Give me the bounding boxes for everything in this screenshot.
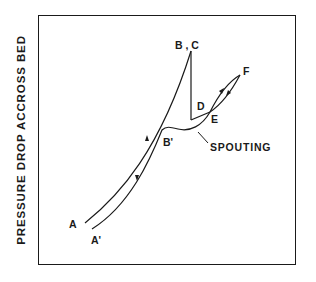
- arrow-up-icon: [145, 135, 149, 141]
- curve-increasing-flow: [85, 51, 191, 223]
- label-a-prime: A': [91, 235, 101, 246]
- label-b-c: B , C: [175, 40, 199, 51]
- label-e: E: [211, 114, 218, 125]
- label-b-prime: B': [163, 137, 173, 148]
- curve-f-to-e-lower: [210, 75, 240, 112]
- label-a: A: [69, 219, 77, 230]
- curve-e-to-f-upper: [210, 75, 240, 112]
- spouted-bed-pressure-diagram: PRESSURE DROP ACCROSS BED A A' B' B , C …: [0, 0, 316, 282]
- spouting-annotation: SPOUTING: [210, 142, 271, 153]
- curve-decreasing-flow: [92, 112, 210, 229]
- spouting-leader-line: [198, 132, 208, 143]
- label-f: F: [243, 66, 249, 77]
- label-d: D: [197, 101, 205, 112]
